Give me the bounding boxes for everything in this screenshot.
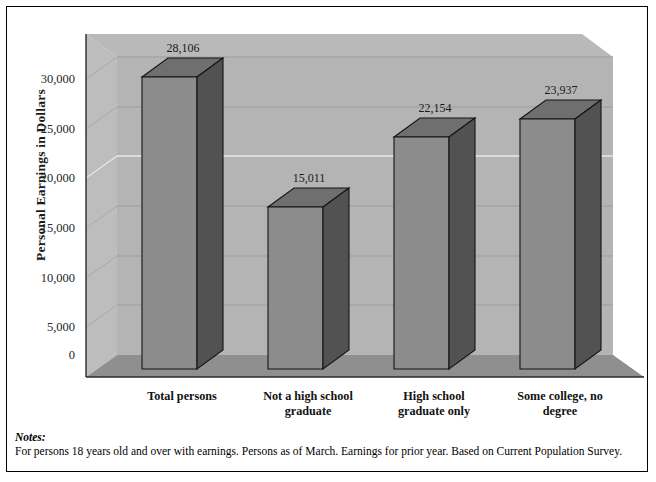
bar-value-label-not-high-school-graduate: 15,011 <box>269 171 349 186</box>
x-category-line: degree <box>497 404 623 419</box>
figure-frame: Personal Earnings in Dollars 0 5,000 10,… <box>6 6 648 472</box>
y-tick-label-10000: 10,000 <box>13 271 75 286</box>
x-category-label-some-college-no-degree: Some college, no degree <box>497 389 623 418</box>
x-category-label-not-high-school-graduate: Not a high school graduate <box>245 389 371 418</box>
x-category-line: Not a high school <box>245 389 371 404</box>
y-tick-label-25000: 25,000 <box>13 122 75 137</box>
bar-side-face <box>449 118 475 369</box>
bar-value-label-total-persons: 28,106 <box>143 41 223 56</box>
y-tick-label-0: 0 <box>13 348 75 363</box>
notes-block: Notes: For persons 18 years old and over… <box>15 431 641 458</box>
bar-value-label-high-school-graduate-only: 22,154 <box>395 101 475 116</box>
bar-total-persons[interactable] <box>142 58 223 369</box>
bar-side-face <box>197 58 223 369</box>
x-category-line: Some college, no <box>497 389 623 404</box>
bar-front-face <box>268 207 323 369</box>
bar-front-face <box>520 119 575 369</box>
y-tick-label-15000: 15,000 <box>13 221 75 236</box>
plot-left-wall <box>86 34 117 377</box>
bar-side-face <box>323 188 349 369</box>
x-category-line: Total persons <box>119 389 245 404</box>
bar-value-label-some-college-no-degree: 23,937 <box>521 83 601 98</box>
bar-some-college-no-degree[interactable] <box>520 100 601 369</box>
notes-heading: Notes: <box>15 431 641 443</box>
figure-root: Personal Earnings in Dollars 0 5,000 10,… <box>0 0 656 482</box>
clipped-footer-text <box>8 474 656 482</box>
y-tick-label-30000: 30,000 <box>13 72 75 87</box>
x-category-label-high-school-graduate-only: High school graduate only <box>371 389 497 418</box>
bar-chart-3d <box>7 7 649 417</box>
bar-side-face <box>575 100 601 369</box>
x-category-line: graduate <box>245 404 371 419</box>
y-tick-label-20000: 20,000 <box>13 171 75 186</box>
x-category-line: High school <box>371 389 497 404</box>
bar-not-high-school-graduate[interactable] <box>268 188 349 369</box>
x-category-label-total-persons: Total persons <box>119 389 245 404</box>
bar-high-school-graduate-only[interactable] <box>394 118 475 369</box>
bar-front-face <box>142 77 197 369</box>
y-tick-label-5000: 5,000 <box>13 320 75 335</box>
notes-text: For persons 18 years old and over with e… <box>15 444 641 458</box>
bar-front-face <box>394 137 449 369</box>
x-category-line: graduate only <box>371 404 497 419</box>
chart-plot-area: Personal Earnings in Dollars 0 5,000 10,… <box>7 7 649 417</box>
